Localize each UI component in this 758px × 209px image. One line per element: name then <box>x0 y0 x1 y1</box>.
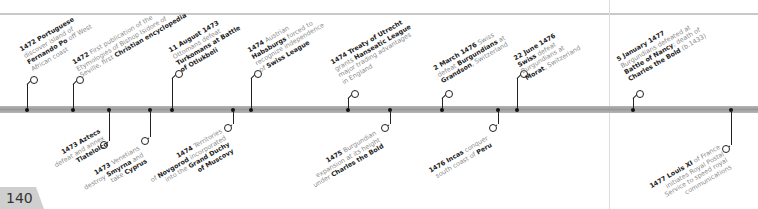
timeline-bar <box>0 106 758 113</box>
ring-icon <box>489 124 497 132</box>
ring-icon <box>141 137 149 145</box>
ring-icon <box>224 124 232 132</box>
connector-stem <box>498 110 499 124</box>
connector-stem <box>27 84 28 109</box>
event-label: 5 January 1477 Burgundians defeated at B… <box>616 13 708 84</box>
connector-stem <box>633 98 634 109</box>
connector-stem <box>251 78 252 109</box>
event-label: 2 March 1476 Swiss defeat Burgundians at… <box>433 28 511 86</box>
connector-stem <box>517 78 518 109</box>
ring-icon <box>722 145 730 153</box>
connector-stem <box>150 110 151 137</box>
event-label: 22 June 1476 Swiss defeat Burgundians at… <box>513 25 582 83</box>
event-label: 1474 Austrian Habsburgs forced to recogn… <box>247 9 330 75</box>
event-label: 1475 Burgundian expansion at its height … <box>305 130 386 190</box>
event-label: 1474 Territories of Novgorod incorporate… <box>145 128 235 197</box>
ring-icon <box>445 90 453 98</box>
column-divider <box>609 0 610 209</box>
event-label: 1474 Treaty of Utrecht grants Hanseatic … <box>330 17 420 87</box>
connector-stem <box>73 84 74 109</box>
ring-icon <box>636 90 644 98</box>
connector-stem <box>109 110 110 141</box>
connector-stem <box>442 98 443 109</box>
ring-icon <box>351 90 359 98</box>
event-label: 1477 Louis XI of France initiates Royal … <box>649 144 734 209</box>
connector-stem <box>731 110 732 145</box>
connector-stem <box>390 110 391 124</box>
connector-stem <box>172 78 173 109</box>
connector-stem <box>233 110 234 124</box>
top-rule <box>0 13 758 15</box>
ring-icon <box>30 76 38 84</box>
event-label: 1476 Incas conquer south coast of Peru <box>428 135 494 182</box>
ring-icon <box>381 124 389 132</box>
connector-stem <box>348 98 349 109</box>
page-number: 140 <box>6 190 33 206</box>
